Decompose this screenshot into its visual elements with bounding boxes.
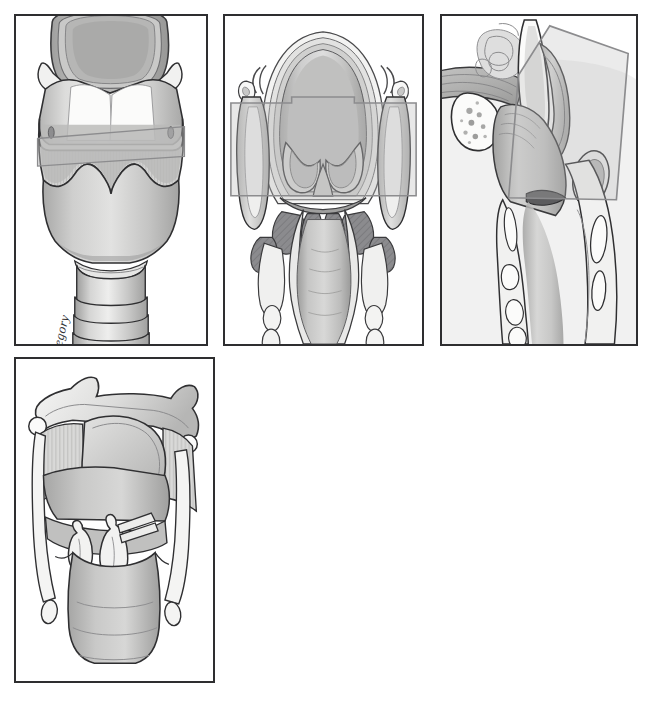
sagittal-section-illustration [442, 16, 636, 344]
anterior-larynx-illustration [16, 16, 206, 344]
panel-posterior-view [14, 357, 215, 683]
section-plane-overlay [231, 97, 416, 196]
panel-coronal-section [223, 14, 424, 346]
figure-root: Gregory [0, 0, 652, 707]
panel-sagittal-section [440, 14, 638, 346]
trachea-posterior [68, 553, 160, 664]
posterior-larynx-illustration [16, 359, 213, 681]
tracheal-lumen [297, 220, 351, 344]
panel-anterior-view: Gregory [14, 14, 208, 346]
coronal-section-illustration [225, 16, 422, 344]
